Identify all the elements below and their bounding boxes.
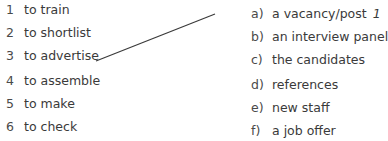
item-letter: f) bbox=[251, 121, 272, 141]
item-text: to shortlist bbox=[24, 25, 91, 40]
item-text: new staff bbox=[272, 100, 330, 115]
item-number: 1 bbox=[6, 0, 24, 20]
item-letter: d) bbox=[251, 75, 272, 95]
item-text: to train bbox=[24, 2, 70, 17]
item-letter: c) bbox=[251, 50, 272, 70]
item-letter: a) bbox=[251, 4, 272, 24]
item-text: a vacancy/post bbox=[272, 6, 367, 21]
item-text: to advertise bbox=[24, 48, 99, 63]
item-number: 6 bbox=[6, 117, 24, 137]
verb-item-2: 2to shortlist bbox=[6, 23, 91, 43]
verb-item-1: 1to train bbox=[6, 0, 70, 20]
item-text: to check bbox=[24, 119, 77, 134]
answer-number: 1 bbox=[373, 6, 381, 21]
item-text: to assemble bbox=[24, 73, 100, 88]
item-letter: e) bbox=[251, 98, 272, 118]
item-text: references bbox=[272, 77, 338, 92]
item-letter: b) bbox=[251, 27, 272, 47]
noun-item-a: a)a vacancy/post1 bbox=[251, 4, 381, 24]
verb-item-5: 5to make bbox=[6, 94, 75, 114]
noun-item-c: c)the candidates bbox=[251, 50, 365, 70]
item-text: an interview panel bbox=[272, 29, 388, 44]
verb-item-6: 6to check bbox=[6, 117, 77, 137]
verb-item-3: 3to advertise bbox=[6, 46, 99, 66]
noun-item-b: b)an interview panel bbox=[251, 27, 388, 47]
item-text: the candidates bbox=[272, 52, 365, 67]
noun-item-e: e)new staff bbox=[251, 98, 330, 118]
item-number: 4 bbox=[6, 71, 24, 91]
item-text: a job offer bbox=[272, 123, 336, 138]
verb-item-4: 4to assemble bbox=[6, 71, 100, 91]
item-number: 2 bbox=[6, 23, 24, 43]
item-number: 5 bbox=[6, 94, 24, 114]
item-number: 3 bbox=[6, 46, 24, 66]
item-text: to make bbox=[24, 96, 75, 111]
noun-item-f: f)a job offer bbox=[251, 121, 336, 141]
noun-item-d: d)references bbox=[251, 75, 338, 95]
